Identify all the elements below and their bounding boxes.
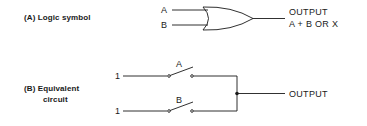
section-b-label: (B) Equivalent [24,84,79,94]
output-bus [237,76,285,111]
switch-b-label: B [176,95,182,105]
section-b-label-line2: circuit [43,95,68,105]
diagram-canvas [0,0,367,126]
switch-a-label: A [176,59,182,69]
circuit-output-label: OUTPUT [289,89,328,99]
source-1-top: 1 [115,71,120,81]
junction-dot [235,92,239,96]
or-gate-symbol [172,7,285,30]
source-1-bottom: 1 [115,106,120,116]
